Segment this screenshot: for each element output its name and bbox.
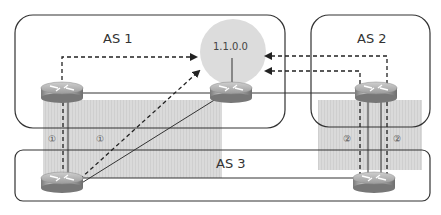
as3-label: AS 3: [216, 156, 246, 171]
step-label-1b: ①: [96, 134, 104, 144]
router-icon: [41, 172, 83, 193]
network-circle: [200, 19, 266, 85]
shaded-region-right: [318, 100, 422, 170]
step-label-1a: ①: [48, 134, 56, 144]
advert-r3-outer-to-network: [266, 56, 387, 84]
as1-label: AS 1: [103, 31, 133, 46]
advert-r1-to-network: [62, 57, 196, 80]
step-label-2b: ②: [393, 134, 401, 144]
network-label: 1.1.0.0: [213, 41, 248, 52]
router-icon: [355, 82, 397, 103]
advert-r3-inner-to-network: [266, 71, 360, 84]
router-icon: [210, 82, 252, 103]
as2-label: AS 2: [357, 31, 387, 46]
bgp-network-diagram: AS 1 AS 2 AS 3 1.1.0.0 ① ① ② ②: [0, 0, 441, 215]
step-label-2a: ②: [343, 134, 351, 144]
router-icon: [41, 82, 83, 103]
router-icon: [353, 172, 395, 193]
